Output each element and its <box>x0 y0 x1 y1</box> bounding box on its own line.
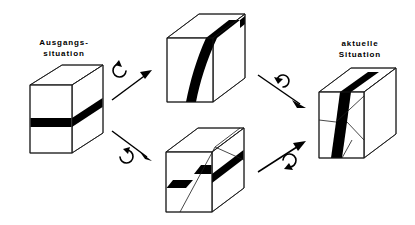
arrow-initial-to-rotated <box>112 60 152 100</box>
diagram-graphics <box>0 0 415 225</box>
aktuelle-situation-cube <box>319 68 396 158</box>
faulted-cube <box>166 128 244 212</box>
rotation-icon <box>120 147 133 163</box>
rotation-icon <box>274 75 289 87</box>
marker-band-front <box>31 118 72 127</box>
rotation-icon <box>283 154 296 170</box>
diagram-canvas: Ausgangs- situation aktuelle Situation <box>0 0 415 225</box>
rotation-icon <box>113 60 126 77</box>
ausgangssituation-cube <box>30 65 103 153</box>
arrow-faulted-to-current <box>258 141 306 172</box>
rotated-cube <box>167 14 245 102</box>
arrow-initial-to-faulted <box>112 131 152 163</box>
arrow-rotated-to-current <box>258 75 306 108</box>
